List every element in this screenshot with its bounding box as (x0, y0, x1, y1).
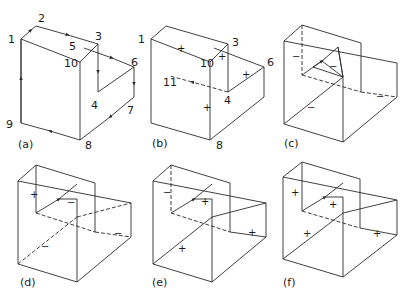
sign-1: + (291, 187, 299, 198)
vertex-label-6: 6 (131, 56, 138, 69)
caption-e: (e) (152, 276, 167, 289)
sign-front: + (203, 102, 211, 113)
vertex-label-2: 2 (38, 12, 45, 25)
sign-1: − (163, 187, 171, 198)
sign-3: − (114, 228, 122, 239)
sign-4: − (41, 241, 49, 252)
sign-top: + (177, 43, 185, 54)
vertex-label-4: 4 (91, 99, 98, 112)
vertex-label-6: 6 (267, 56, 274, 69)
vertex-label-4: 4 (224, 94, 231, 107)
vertex-label-3: 3 (95, 30, 102, 43)
vertex-label-10: 10 (200, 57, 214, 70)
sign-1: + (30, 189, 38, 200)
vertex-label-7: 7 (127, 104, 134, 117)
sign-1: − (292, 51, 300, 62)
vertex-label-8: 8 (216, 139, 223, 152)
panel-b: 1 3 10 6 11 4 8 + + + + (b) (138, 26, 274, 152)
panel-c: − − − − (c) (284, 25, 397, 150)
sign-2: − (329, 61, 337, 72)
sign-2: + (329, 199, 337, 210)
vertex-label-1: 1 (138, 33, 145, 46)
sign-3: − (376, 91, 384, 102)
vertex-label-10: 10 (64, 57, 78, 70)
panel-f: + + + + (f) (283, 162, 397, 289)
figure-canvas: 1 2 3 4 5 6 7 8 9 10 (a) 1 3 10 6 11 4 8… (0, 0, 413, 296)
vertex-label-11: 11 (163, 76, 177, 89)
vertex-label-5: 5 (69, 40, 76, 53)
caption-a: (a) (18, 138, 33, 151)
panel-d: + − − − (d) (18, 165, 131, 289)
vertex-label-3: 3 (232, 36, 239, 49)
caption-c: (c) (284, 137, 299, 150)
sign-4: − (307, 102, 315, 113)
sign-4: + (303, 228, 311, 239)
vertex-label-8: 8 (85, 139, 92, 152)
sign-2: − (67, 197, 75, 208)
sign-side: + (218, 51, 226, 62)
vertex-label-9: 9 (6, 118, 13, 131)
caption-f: (f) (283, 276, 295, 289)
caption-b: (b) (152, 137, 168, 150)
sign-4: + (178, 243, 186, 254)
sign-2: + (201, 196, 209, 207)
panel-a: 1 2 3 4 5 6 7 8 9 10 (a) (6, 12, 138, 152)
sign-3: + (248, 227, 256, 238)
sign-low-top: + (242, 69, 250, 80)
vertex-label-1: 1 (8, 33, 15, 46)
caption-d: (d) (20, 276, 36, 289)
panel-e: − + + + (e) (152, 165, 266, 289)
sign-3: + (373, 228, 381, 239)
